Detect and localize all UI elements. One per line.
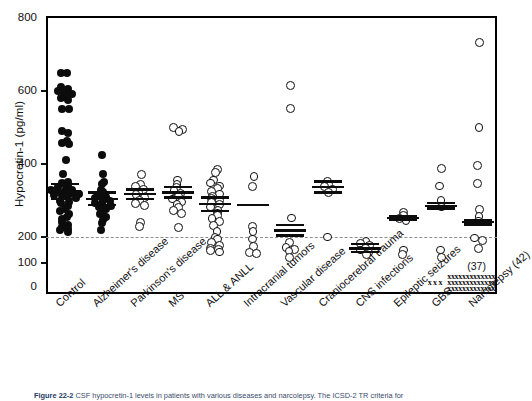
y-tick-label: 400	[3, 158, 37, 170]
caption-figure-number: Figure 22-2	[34, 391, 73, 400]
error-bar-vertical	[64, 184, 66, 199]
data-point	[248, 182, 257, 191]
data-point	[98, 151, 106, 159]
data-point	[135, 222, 144, 231]
data-point	[174, 223, 183, 232]
data-point	[64, 129, 72, 137]
data-point	[206, 246, 215, 255]
caption-text: CSF hypocretin-1 levels in patients with…	[76, 391, 404, 400]
y-tick-label: 800	[3, 12, 37, 24]
data-point	[177, 209, 186, 218]
data-point	[131, 199, 140, 208]
data-point	[287, 214, 296, 223]
error-bar-vertical	[101, 192, 103, 204]
y-tick-label: 100	[3, 257, 37, 269]
data-point	[250, 172, 259, 181]
plot-area	[46, 16, 497, 294]
data-point	[137, 170, 146, 179]
data-point	[473, 161, 482, 170]
figure-caption: Figure 22-2 CSF hypocretin-1 levels in p…	[34, 391, 514, 400]
y-tick-label: 600	[3, 85, 37, 97]
data-point	[437, 164, 446, 173]
y-tick-label: 0	[3, 281, 37, 293]
data-point	[475, 123, 484, 132]
data-point	[286, 104, 295, 113]
threshold-line-200	[46, 237, 497, 238]
mean-line	[237, 204, 269, 206]
data-point	[175, 127, 184, 136]
below-detection-count-label: (37)	[467, 260, 486, 272]
data-point	[62, 156, 70, 164]
data-point	[286, 81, 295, 90]
data-point	[97, 226, 105, 234]
data-point	[475, 38, 484, 47]
y-tick-label: 200	[3, 231, 37, 243]
data-point	[215, 248, 224, 257]
data-point	[140, 201, 149, 210]
